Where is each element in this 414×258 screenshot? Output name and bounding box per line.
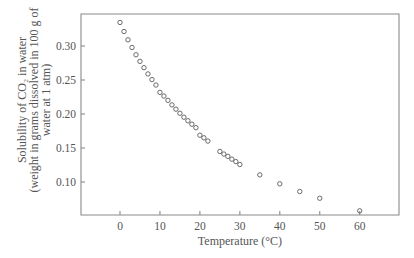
data-point-marker: [122, 29, 126, 33]
data-point-marker: [154, 83, 158, 87]
data-point-marker: [194, 125, 198, 129]
plot-border: [81, 14, 399, 215]
x-tick-label: 60: [354, 220, 366, 232]
data-point-marker: [234, 159, 238, 163]
data-point-marker: [118, 20, 122, 24]
data-point-marker: [182, 115, 186, 119]
data-point-marker: [206, 139, 210, 143]
x-tick-label: 30: [234, 220, 246, 232]
data-point-marker: [202, 136, 206, 140]
data-point-marker: [278, 182, 282, 186]
x-tick-label: 40: [274, 220, 286, 232]
data-point-marker: [162, 94, 166, 98]
data-point-marker: [298, 189, 302, 193]
data-point-marker: [318, 196, 322, 200]
data-point-marker: [126, 38, 130, 42]
data-point-marker: [146, 72, 150, 76]
data-point-marker: [150, 77, 154, 81]
data-series: [118, 20, 362, 213]
x-tick-label: 20: [194, 220, 206, 232]
y-axis-title: Solubility of CO₂ in water (weight in gr…: [15, 8, 53, 193]
chart: 0.100.150.200.250.30 0102030405060 Tempe…: [0, 0, 414, 258]
x-tick-label: 10: [154, 220, 166, 232]
data-point-marker: [190, 122, 194, 126]
data-point-marker: [226, 154, 230, 158]
data-point-marker: [238, 162, 242, 166]
data-point-marker: [130, 45, 134, 49]
x-tick-label: 0: [117, 220, 123, 232]
data-point-marker: [166, 98, 170, 102]
y-axis-title-line-3: water at 1 atm): [39, 64, 53, 136]
data-point-marker: [170, 103, 174, 107]
data-point-marker: [186, 119, 190, 123]
y-tick-label: 0.25: [56, 74, 76, 86]
y-tick-label: 0.10: [56, 176, 76, 188]
y-tick-label: 0.15: [56, 142, 76, 154]
data-point-marker: [258, 173, 262, 177]
data-point-marker: [174, 107, 178, 111]
plot-frame: [81, 14, 399, 215]
data-point-marker: [158, 90, 162, 94]
x-axis: 0102030405060: [117, 211, 366, 232]
y-tick-label: 0.30: [56, 40, 76, 52]
x-axis-title: Temperature (°C): [198, 234, 282, 248]
x-tick-label: 50: [314, 220, 326, 232]
data-point-marker: [134, 53, 138, 57]
y-tick-label: 0.20: [56, 108, 76, 120]
data-point-marker: [178, 111, 182, 115]
data-point-marker: [138, 59, 142, 63]
data-point-marker: [142, 65, 146, 69]
